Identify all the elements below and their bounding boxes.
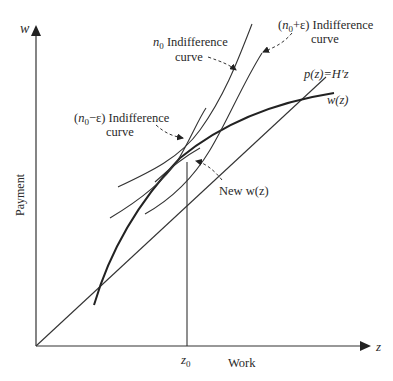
y-axis-label: Payment: [13, 173, 27, 216]
n0-minus-pointer-arrow-icon: [156, 125, 183, 138]
z0-tick-label: z0: [180, 352, 191, 369]
n0-curve-label: n0 Indifference curve: [153, 35, 228, 64]
n0-minus-curve-label: (n0−ε) Indifference curve: [74, 111, 170, 139]
svg-text:n0 Indifference: n0 Indifference: [153, 35, 228, 51]
y-axis-symbol: w: [20, 21, 30, 36]
new-w-label: New w(z): [219, 184, 269, 198]
p-line-label: p(z)=H′z: [303, 67, 349, 81]
y-axis: [31, 25, 41, 346]
n0-plus-pointer-arrow-icon: [263, 33, 292, 52]
n0-plus-curve-label: (n0+ε) Indifference curve: [278, 18, 374, 46]
svg-text:curve: curve: [175, 50, 203, 64]
payment-work-diagram: w z Payment Work z0 n0 Indifference curv…: [0, 0, 393, 381]
x-axis-arrow-icon: [360, 341, 371, 351]
x-axis: [36, 341, 371, 351]
x-axis-symbol: z: [375, 339, 381, 354]
n0-pointer-arrow-icon: [208, 57, 236, 70]
x-axis-label: Work: [228, 356, 256, 370]
w-curve-label: w(z): [327, 93, 349, 107]
svg-text:curve: curve: [311, 32, 339, 46]
svg-text:curve: curve: [106, 125, 134, 139]
y-axis-arrow-icon: [31, 25, 41, 36]
